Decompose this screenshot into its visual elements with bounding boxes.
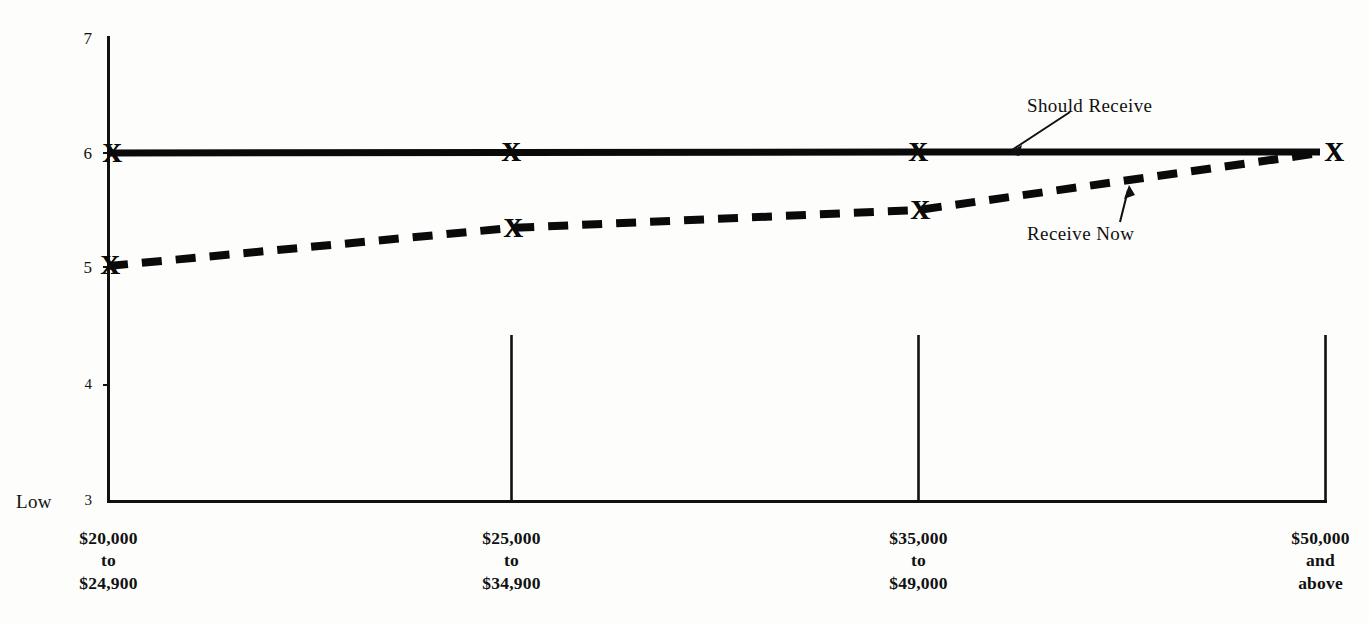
- y-axis-low-label: Low: [16, 492, 52, 511]
- x-category-label-2-line-0: $35,000: [830, 527, 1007, 549]
- x-category-label-0-line-1: to: [20, 549, 197, 571]
- x-category-label-1: $25,000 to $34,900: [423, 527, 600, 594]
- x-category-label-0-line-2: $24,900: [20, 572, 197, 594]
- y-tick-label-6: 6: [62, 145, 92, 162]
- marker-should-receive-3: X: [1324, 139, 1344, 166]
- marker-should-receive-0: X: [102, 140, 122, 167]
- series-line-receive-now: [108, 153, 1320, 266]
- chart-plot-area: [0, 0, 1369, 623]
- y-tick-label-4: 4: [62, 377, 92, 392]
- x-category-label-1-line-0: $25,000: [423, 527, 600, 549]
- marker-should-receive-1: X: [501, 139, 521, 166]
- marker-receive-now-0: X: [100, 252, 120, 279]
- x-category-label-3-line-0: $50,000: [1232, 527, 1369, 549]
- x-category-label-3-line-2: above: [1232, 572, 1369, 594]
- chart-container: 7 6 5 4 3 Low X X X X X X X Should Recei…: [0, 0, 1369, 623]
- series-line-should-receive: [108, 152, 1320, 153]
- y-tick-label-3: 3: [62, 493, 92, 508]
- series-label-should-receive: Should Receive: [1027, 96, 1152, 115]
- marker-receive-now-2: X: [910, 197, 930, 224]
- marker-receive-now-1: X: [503, 215, 523, 242]
- leader-line-should-receive: [1012, 112, 1070, 150]
- y-tick-label-7: 7: [62, 30, 92, 47]
- x-category-label-1-line-1: to: [423, 549, 600, 571]
- x-category-label-3-line-1: and: [1232, 549, 1369, 571]
- x-category-label-2-line-2: $49,000: [830, 572, 1007, 594]
- y-tick-label-5: 5: [62, 259, 92, 276]
- x-category-label-2-line-1: to: [830, 549, 1007, 571]
- x-category-label-0: $20,000 to $24,900: [20, 527, 197, 594]
- series-label-receive-now: Receive Now: [1027, 224, 1134, 243]
- x-category-label-1-line-2: $34,900: [423, 572, 600, 594]
- x-category-label-3: $50,000 and above: [1232, 527, 1369, 594]
- x-category-label-2: $35,000 to $49,000: [830, 527, 1007, 594]
- marker-should-receive-2: X: [908, 139, 928, 166]
- leader-arrow-receive-now: [1124, 185, 1135, 199]
- x-category-label-0-line-0: $20,000: [20, 527, 197, 549]
